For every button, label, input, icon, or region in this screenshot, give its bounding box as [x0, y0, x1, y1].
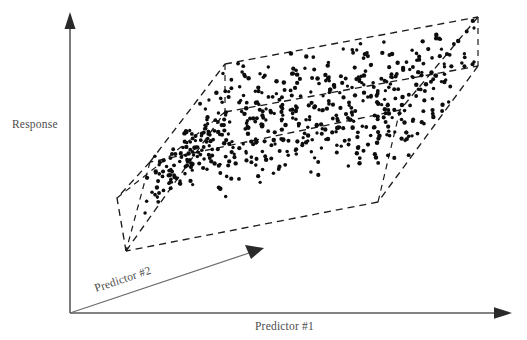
data-point: [390, 52, 395, 57]
data-point: [347, 143, 351, 147]
data-point: [185, 141, 188, 144]
data-point: [355, 151, 359, 155]
data-point: [375, 100, 379, 104]
data-point: [306, 139, 309, 142]
data-point: [410, 75, 413, 78]
data-point: [387, 111, 391, 115]
data-point: [277, 165, 281, 169]
figure-root: Response Predictor #1 Predictor #2: [0, 0, 527, 340]
data-point: [233, 161, 237, 165]
data-point: [302, 136, 305, 139]
data-point: [355, 135, 359, 139]
data-point: [314, 104, 317, 107]
data-point: [216, 120, 220, 124]
data-point: [434, 36, 438, 40]
data-point: [472, 26, 475, 29]
data-point: [216, 130, 221, 135]
data-point: [237, 101, 241, 105]
data-point: [414, 94, 418, 98]
data-point: [317, 82, 321, 86]
data-point: [191, 150, 195, 154]
data-point: [143, 211, 147, 215]
data-point: [445, 52, 449, 56]
data-point: [214, 90, 219, 95]
data-point: [380, 103, 383, 106]
data-point: [393, 130, 396, 133]
data-point: [382, 40, 386, 44]
data-point: [456, 39, 461, 44]
data-point: [183, 172, 187, 176]
data-point: [172, 173, 176, 177]
data-point: [314, 123, 319, 128]
data-point: [150, 190, 154, 194]
data-point: [438, 54, 442, 58]
data-point: [323, 73, 327, 77]
data-point: [352, 120, 355, 123]
data-point: [340, 81, 344, 85]
data-point: [223, 89, 227, 93]
data-point: [184, 153, 188, 157]
data-point: [289, 51, 293, 55]
data-point: [216, 147, 220, 151]
data-point: [165, 165, 168, 168]
data-point: [264, 158, 268, 162]
data-point: [222, 141, 227, 146]
data-point: [421, 39, 425, 43]
data-point: [200, 134, 204, 138]
data-point: [304, 54, 308, 58]
data-point: [327, 61, 330, 64]
data-point: [269, 157, 273, 161]
data-point: [463, 52, 466, 55]
data-point: [294, 147, 298, 151]
predictor-2-axis-label: Predictor #2: [93, 264, 153, 294]
data-point: [202, 145, 206, 149]
data-point: [281, 114, 284, 117]
data-point: [338, 106, 342, 110]
data-point: [315, 131, 318, 134]
data-point: [331, 117, 335, 121]
data-point: [299, 94, 303, 98]
data-point: [208, 133, 212, 137]
data-point: [416, 70, 420, 74]
data-point: [440, 48, 443, 51]
data-point: [171, 147, 175, 151]
data-point: [359, 42, 363, 46]
data-point: [321, 108, 325, 112]
data-point: [382, 115, 386, 119]
data-point: [273, 142, 276, 145]
data-point: [447, 100, 451, 104]
data-point: [261, 150, 265, 154]
data-point: [362, 91, 366, 95]
data-point: [224, 155, 228, 159]
data-point: [311, 55, 315, 59]
data-point: [285, 150, 289, 154]
data-point: [306, 133, 311, 138]
data-point: [254, 163, 258, 167]
data-point: [346, 84, 349, 87]
data-point: [338, 91, 341, 94]
data-point: [260, 91, 263, 94]
data-point: [251, 142, 255, 146]
data-point: [366, 142, 370, 146]
data-point: [272, 171, 275, 174]
data-point: [335, 126, 339, 130]
response-axis-label: Response: [12, 118, 58, 131]
data-point: [283, 163, 287, 167]
data-point: [310, 150, 313, 153]
data-point: [462, 64, 466, 68]
box-edge-bottom-left: [126, 112, 225, 251]
data-point: [392, 87, 396, 91]
data-point: [344, 112, 348, 116]
data-point: [307, 103, 311, 107]
data-point: [356, 146, 360, 150]
data-point: [254, 101, 258, 105]
data-point: [394, 97, 398, 101]
data-point: [222, 128, 226, 132]
data-point: [263, 139, 267, 143]
data-point: [376, 117, 380, 121]
data-point: [315, 76, 320, 81]
data-point: [251, 116, 255, 120]
data-point: [155, 185, 159, 189]
data-point: [392, 156, 396, 160]
data-point: [162, 189, 166, 193]
